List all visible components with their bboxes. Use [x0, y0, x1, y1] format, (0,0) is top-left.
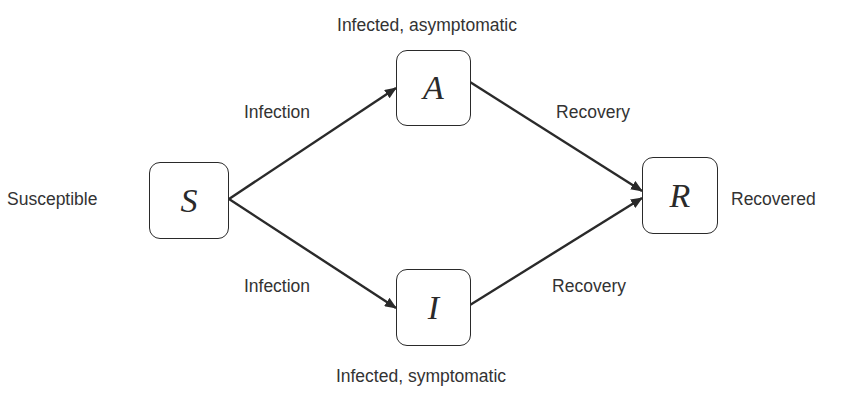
- sair-diagram: S A I R Susceptible Infected, asymptomat…: [0, 0, 863, 401]
- label-recovered: Recovered: [731, 191, 816, 209]
- label-susceptible: Susceptible: [7, 191, 97, 209]
- node-symbol-i: I: [428, 291, 439, 325]
- label-infected-asymptomatic: Infected, asymptomatic: [337, 17, 517, 35]
- edge-label-recovery-top: Recovery: [556, 104, 630, 122]
- node-infected-symptomatic: I: [396, 269, 471, 346]
- node-symbol-a: A: [423, 71, 444, 105]
- node-susceptible: S: [149, 162, 229, 239]
- node-infected-asymptomatic: A: [396, 50, 471, 126]
- node-symbol-s: S: [181, 184, 198, 218]
- edge-a-to-r-arrow: [470, 82, 642, 191]
- edge-label-infection-top: Infection: [244, 104, 310, 122]
- node-recovered: R: [642, 157, 718, 234]
- label-infected-symptomatic: Infected, symptomatic: [336, 368, 506, 386]
- edge-label-infection-bottom: Infection: [244, 278, 310, 296]
- edge-label-recovery-bottom: Recovery: [552, 278, 626, 296]
- node-symbol-r: R: [670, 179, 691, 213]
